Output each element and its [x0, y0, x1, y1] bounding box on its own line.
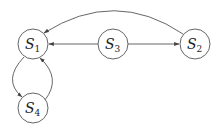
edge-s1-to-s4 [12, 57, 24, 97]
node-s3: S3 [98, 29, 128, 59]
node-subscript: 1 [35, 44, 41, 54]
node-label: S [25, 100, 35, 116]
node-label: S [105, 36, 115, 52]
node-s2: S2 [180, 29, 210, 59]
node-subscript: 3 [115, 44, 121, 54]
node-subscript: 4 [35, 108, 41, 118]
node-label: S [187, 36, 197, 52]
node-s4: S4 [18, 93, 48, 123]
edge-s4-to-s1 [40, 58, 52, 100]
node-subscript: 2 [197, 44, 203, 54]
node-s1: S1 [18, 29, 48, 59]
state-diagram: S1 S3 S2 S4 [0, 0, 221, 136]
node-label: S [25, 36, 35, 52]
